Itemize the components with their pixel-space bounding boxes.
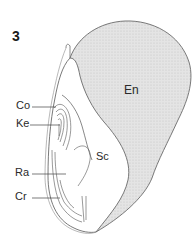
radicle-lines — [52, 150, 86, 222]
endosperm-region — [70, 21, 191, 232]
label-coleoptile: Co — [16, 100, 30, 111]
label-endosperm: En — [124, 84, 139, 96]
label-scutellum: Sc — [96, 151, 109, 162]
label-radicle: Ra — [15, 167, 29, 178]
scutellum-boundary — [62, 95, 92, 160]
coleoptile-lines — [54, 104, 71, 150]
figure-number: 3 — [12, 29, 20, 43]
label-ke: Ke — [16, 118, 29, 129]
seed-diagram: 3 En Sc Co Ke Ra Cr — [0, 0, 196, 238]
label-coleorhiza: Cr — [15, 191, 27, 202]
